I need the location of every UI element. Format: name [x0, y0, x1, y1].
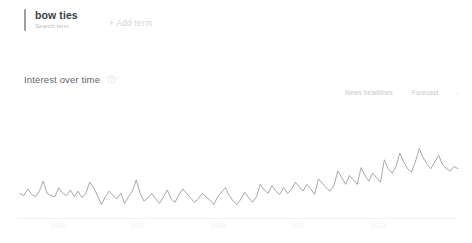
page-title: Interest over time — [24, 74, 100, 85]
search-term-chip[interactable]: bow ties Search term — [24, 9, 78, 31]
x-axis-tick-2009: 2009 — [210, 222, 225, 229]
term-accent-bar — [24, 9, 26, 31]
term-text-group: bow ties Search term — [35, 9, 78, 31]
x-axis-tick-2007: 2007 — [130, 222, 145, 229]
help-icon[interactable] — [107, 75, 116, 84]
legend-forecast[interactable]: Forecast — [412, 89, 439, 96]
x-axis-tick-2013: 2013 — [370, 222, 385, 229]
trend-line-svg — [0, 100, 472, 220]
interest-over-time-header: Interest over time — [24, 74, 116, 85]
x-axis-tick-2011: 2011 — [291, 222, 306, 229]
search-term-title: bow ties — [35, 9, 78, 21]
trends-page: bow ties Search term + Add term Interest… — [0, 0, 472, 243]
search-term-subtitle: Search term — [35, 22, 78, 31]
x-axis-line — [18, 218, 458, 219]
x-axis-tick-labels: 20052007200920112013 — [0, 222, 472, 236]
add-term-button[interactable]: + Add term — [109, 18, 152, 28]
x-axis-tick-2005: 2005 — [50, 222, 65, 229]
interest-over-time-chart[interactable] — [0, 100, 472, 220]
legend-news-headlines[interactable]: News headlines — [345, 89, 393, 96]
search-term-bar: bow ties Search term + Add term — [0, 0, 472, 44]
